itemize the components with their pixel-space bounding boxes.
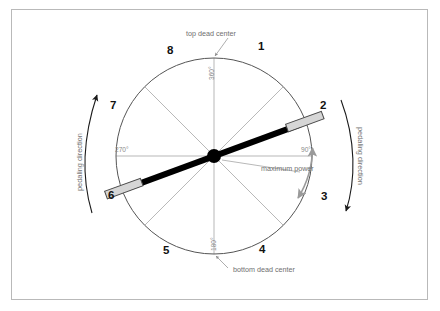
position-label-1: 1 xyxy=(258,41,264,53)
diagram-canvas: 1 2 3 4 5 6 7 8 top dead center bottom d… xyxy=(0,0,440,311)
angle-label-360: 360° xyxy=(209,66,216,80)
position-label-8: 8 xyxy=(167,45,173,57)
top-dead-center-label: top dead center xyxy=(186,30,236,37)
pedal-upper-right xyxy=(286,111,324,132)
pedal-upper-right-platform xyxy=(286,111,324,132)
crank-hub xyxy=(207,149,221,163)
position-label-5: 5 xyxy=(163,245,169,257)
position-label-6: 6 xyxy=(108,190,114,202)
angle-label-270: 270° xyxy=(115,147,129,154)
pedaling-direction-arc-right xyxy=(341,100,353,211)
angle-label-180: 180° xyxy=(211,237,218,251)
pedaling-direction-label-right: pedaling direction xyxy=(357,127,364,185)
bottom-dead-center-label: bottom dead center xyxy=(233,266,295,273)
pedaling-direction-arc-left xyxy=(85,95,97,213)
position-label-2: 2 xyxy=(320,100,326,112)
bottom-dead-center-leader xyxy=(216,256,228,268)
position-label-7: 7 xyxy=(110,100,116,112)
maximum-power-label: maximum power xyxy=(261,165,314,172)
top-dead-center-leader xyxy=(215,38,228,56)
angle-label-90: 90° xyxy=(301,147,311,154)
pedaling-direction-label-left: pedaling direction xyxy=(76,133,83,191)
crank-cycle-svg xyxy=(0,0,440,311)
position-label-4: 4 xyxy=(259,244,265,256)
position-label-3: 3 xyxy=(321,191,327,203)
